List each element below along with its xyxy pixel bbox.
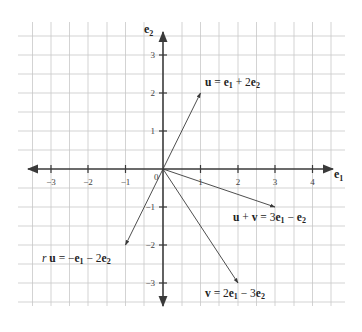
vector-v-label: v = 2e1 − 3e2 [205, 287, 265, 301]
origin-label: 0 [154, 172, 159, 182]
x-tick-labels: −3 −2 −1 1 2 3 4 [46, 177, 315, 187]
y-tick-label: 2 [151, 88, 156, 98]
x-tick-label: −1 [121, 177, 131, 187]
vector-u-label: u = e1 + 2e2 [205, 76, 260, 90]
y-tick-label: −3 [145, 278, 155, 288]
x-tick-label: 3 [273, 177, 278, 187]
x-tick-label: −3 [46, 177, 56, 187]
x-tick-label: 2 [236, 177, 241, 187]
vector-ru-label: r u = −e1 − 2e2 [42, 252, 111, 266]
y-tick-label: −1 [145, 202, 155, 212]
y-axis-label: e2 [144, 22, 153, 38]
vector-u-plus-v-label: u + v = 3e1 − e2 [233, 211, 306, 225]
y-tick-label: 1 [151, 126, 156, 136]
x-tick-label: 4 [310, 177, 315, 187]
y-tick-label: −2 [145, 240, 155, 250]
x-axis-label: e1 [334, 167, 343, 183]
x-tick-label: −2 [83, 177, 93, 187]
y-tick-label: 3 [151, 50, 156, 60]
vector-diagram: −3 −2 −1 1 2 3 4 3 2 1 −1 −2 −3 0 e2 e1 … [0, 0, 362, 332]
